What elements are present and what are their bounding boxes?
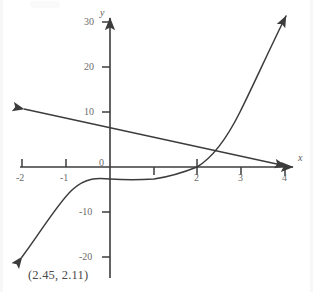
y-tick-label-10: 10 bbox=[84, 107, 94, 117]
y-tick-label-30: 30 bbox=[84, 17, 94, 27]
x-tick-label-2: 2 bbox=[194, 173, 199, 183]
x-axis-label: x bbox=[298, 153, 302, 163]
x-tick-label-neg1: -1 bbox=[60, 173, 68, 183]
y-axis-label: y bbox=[100, 8, 104, 18]
y-tick-label-neg20: -20 bbox=[79, 252, 92, 262]
x-tick-label-3: 3 bbox=[238, 173, 243, 183]
intersection-annotation: (2.45, 2.11) bbox=[28, 268, 88, 283]
y-tick-label-20: 20 bbox=[84, 62, 94, 72]
coordinate-plot bbox=[0, 0, 313, 292]
line-graph bbox=[24, 109, 286, 166]
x-tick-label-neg2: -2 bbox=[16, 173, 24, 183]
x-tick-label-4: 4 bbox=[282, 173, 287, 183]
origin-label: 0 bbox=[99, 158, 104, 168]
graph-figure: y x 0 30 20 10 -10 -20 -2 -1 2 3 4 (2.45… bbox=[0, 0, 313, 292]
y-axis bbox=[102, 18, 110, 278]
curve-graph bbox=[22, 16, 286, 257]
y-tick-label-neg10: -10 bbox=[79, 207, 92, 217]
